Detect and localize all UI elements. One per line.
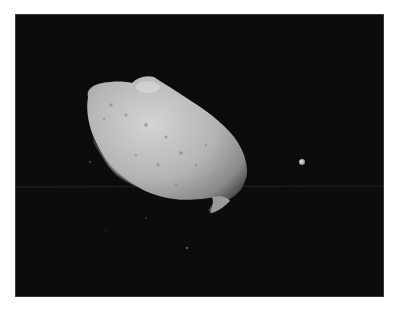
asteroid-photo-svg [16, 15, 383, 296]
asteroid-photo: Space photograph of an elongated, crater… [16, 15, 383, 296]
moon [299, 159, 305, 165]
